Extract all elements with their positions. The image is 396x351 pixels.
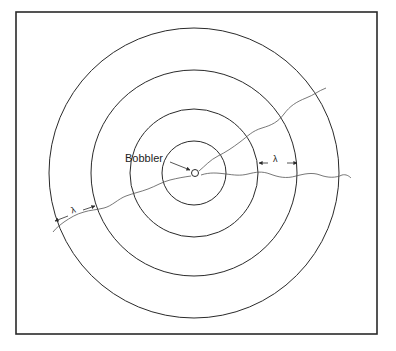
ripple-diagram bbox=[0, 0, 396, 351]
wavelength-label-right: λ bbox=[273, 154, 278, 164]
bobbler-label: Bobbler bbox=[125, 152, 163, 164]
bobbler bbox=[192, 170, 199, 177]
bobbler-pointer-arrow bbox=[170, 162, 190, 170]
line-upper-right bbox=[199, 88, 326, 171]
line-right bbox=[201, 172, 351, 178]
